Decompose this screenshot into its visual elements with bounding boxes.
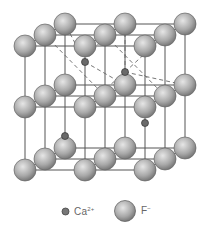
legend-item-ca: Ca2+ [61, 206, 94, 217]
f-ion-sphere [134, 159, 156, 181]
f-ion-sphere [54, 13, 76, 35]
f-ion-sphere [134, 96, 156, 118]
f-ion-sphere [154, 85, 176, 107]
f-ion-sphere [134, 35, 156, 57]
ca-ion-sphere [82, 59, 89, 66]
f-ion-sphere [114, 74, 136, 96]
ion-layer [14, 13, 196, 181]
f-ion-sphere [174, 13, 196, 35]
f-ion-sphere [34, 24, 56, 46]
f-ion-sphere [74, 159, 96, 181]
f-ion-sphere [14, 159, 36, 181]
f-ion-sphere [34, 148, 56, 170]
f-ion-sphere [94, 24, 116, 46]
legend-label-f: F− [141, 205, 151, 216]
f-ion-icon [113, 199, 137, 223]
f-ion-sphere [114, 13, 136, 35]
f-ion-sphere [94, 148, 116, 170]
f-ion-sphere [34, 85, 56, 107]
f-ion-sphere [154, 24, 176, 46]
legend-item-f: F− [113, 199, 151, 223]
f-ion-sphere [14, 96, 36, 118]
f-ion-sphere [154, 148, 176, 170]
f-ion-sphere [14, 35, 36, 57]
ca-ion-sphere [122, 69, 129, 76]
f-ion-sphere [174, 74, 196, 96]
legend-label-ca: Ca2+ [74, 206, 94, 217]
f-ion-sphere [74, 96, 96, 118]
f-ion-sphere [74, 35, 96, 57]
ca-ion-sphere [62, 133, 69, 140]
f-ion-sphere [174, 137, 196, 159]
f-ion-sphere [54, 137, 76, 159]
ca-ion-icon [61, 207, 70, 216]
ca-ion-sphere [142, 120, 149, 127]
f-ion-sphere [94, 85, 116, 107]
legend: Ca2+ F− [0, 203, 208, 225]
f-ion-sphere [54, 74, 76, 96]
f-ion-sphere [114, 137, 136, 159]
